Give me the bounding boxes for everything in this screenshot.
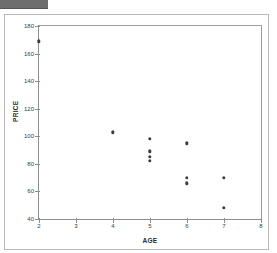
scatter-point [222,206,225,209]
scatter-point [111,130,114,133]
scatter-plot-frame: 4060801001201401601802345678 [38,25,262,220]
scatter-point [37,39,40,42]
y-axis-tick [35,109,40,110]
y-axis-tick-label: 140 [24,78,34,84]
y-axis-tick-label: 120 [24,106,34,112]
scatter-point [185,181,188,184]
window-header-bar [0,0,48,9]
scatter-point [185,141,188,144]
scatter-point [148,155,151,158]
scatter-point [148,159,151,162]
x-axis-tick-label: 6 [185,223,188,229]
y-axis-tick-label: 60 [27,188,34,194]
y-axis-tick-label: 80 [27,161,34,167]
y-axis-tick [35,191,40,192]
y-axis-tick-label: 100 [24,133,34,139]
x-axis-title: AGE [38,237,262,244]
x-axis-tick-label: 3 [74,223,77,229]
y-axis-title: PRICE [12,101,19,122]
scatter-point [148,137,151,140]
scatter-point [185,176,188,179]
y-axis-tick-label: 160 [24,51,34,57]
x-axis-tick-label: 4 [111,223,114,229]
x-axis-tick-label: 2 [37,223,40,229]
y-axis-tick-label: 180 [24,23,34,29]
plot-area: 4060801001201401601802345678 [39,26,261,219]
x-axis-tick-label: 7 [222,223,225,229]
y-axis-tick [35,54,40,55]
figure-card: 4060801001201401601802345678 AGE PRICE [4,14,269,250]
y-axis-tick [35,164,40,165]
y-axis-tick-label: 40 [27,216,34,222]
y-axis-tick [35,81,40,82]
scatter-point [148,150,151,153]
scatter-point [222,176,225,179]
x-axis-tick-label: 5 [148,223,151,229]
x-axis-tick-label: 8 [259,223,262,229]
y-axis-tick [35,26,40,27]
y-axis-tick [35,136,40,137]
